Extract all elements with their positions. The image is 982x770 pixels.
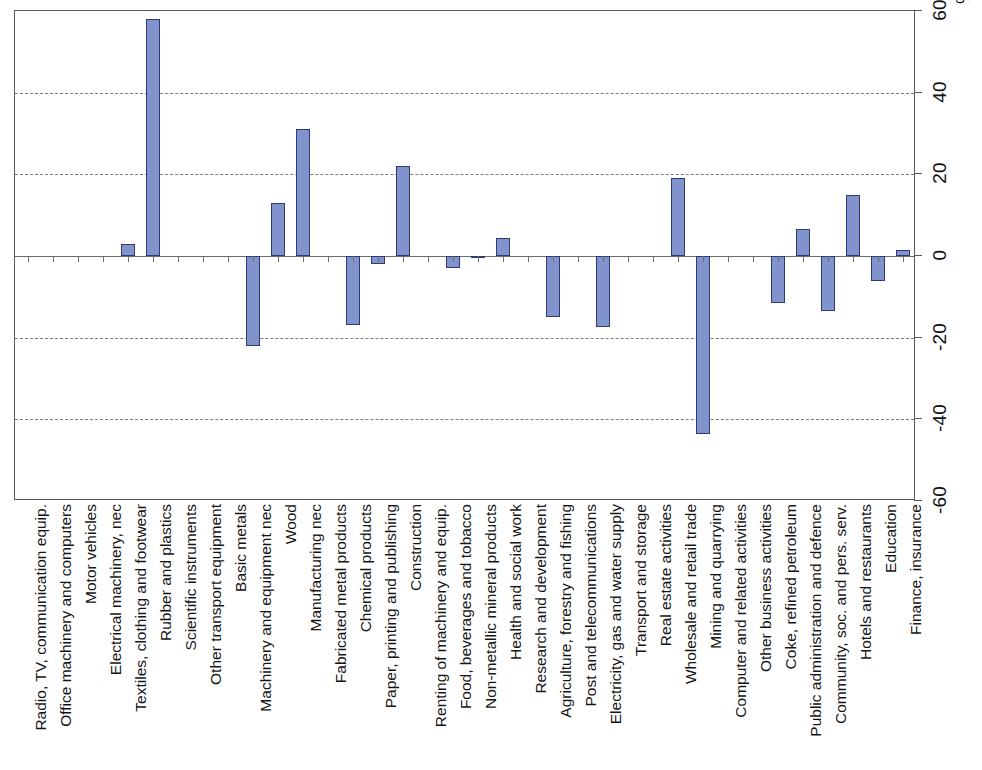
category-tick bbox=[628, 256, 629, 262]
category-tick bbox=[478, 256, 479, 262]
category-tick bbox=[503, 256, 504, 262]
category-tick bbox=[153, 256, 154, 262]
y-axis-tick-label: -20 bbox=[929, 315, 951, 359]
category-label: Non-metallic mineral products bbox=[483, 504, 499, 768]
y-axis-tick-label: -40 bbox=[929, 396, 951, 440]
y-axis-tick-label: -60 bbox=[929, 478, 951, 522]
category-tick bbox=[378, 256, 379, 262]
y-axis-tick-label: 60 bbox=[929, 0, 951, 32]
bar bbox=[846, 195, 860, 256]
category-tick bbox=[103, 256, 104, 262]
bar bbox=[496, 238, 510, 256]
category-tick bbox=[28, 256, 29, 262]
category-label: Paper, printing and publishing bbox=[383, 504, 399, 768]
y-axis-unit-label: % bbox=[952, 0, 974, 4]
category-label: Renting of machinery and equip. bbox=[433, 504, 449, 768]
bar bbox=[271, 203, 285, 256]
category-tick bbox=[603, 256, 604, 262]
category-label: Agriculture, forestry and fishing bbox=[558, 504, 574, 768]
category-tick bbox=[828, 256, 829, 262]
category-label: Fabricated metal products bbox=[333, 504, 349, 768]
category-label: Post and telecommunications bbox=[583, 504, 599, 768]
category-label: Wood bbox=[283, 504, 299, 768]
bar bbox=[696, 256, 710, 434]
bar bbox=[671, 178, 685, 256]
bar bbox=[121, 244, 135, 256]
category-tick bbox=[53, 256, 54, 262]
category-tick bbox=[528, 256, 529, 262]
bar bbox=[596, 256, 610, 327]
category-label: Computer and related activities bbox=[733, 504, 749, 768]
bar bbox=[396, 166, 410, 256]
category-tick bbox=[303, 256, 304, 262]
category-label: Basic metals bbox=[233, 504, 249, 768]
category-label: Health and social work bbox=[508, 504, 524, 768]
category-label: Public administration and defence bbox=[808, 504, 824, 768]
y-axis-labels: 6040200-20-40-60 bbox=[918, 10, 962, 500]
bar bbox=[821, 256, 835, 311]
category-tick bbox=[678, 256, 679, 262]
category-tick bbox=[778, 256, 779, 262]
category-label: Radio, TV, communication equip. bbox=[33, 504, 49, 768]
category-label: Electrical machinery, nec bbox=[108, 504, 124, 768]
category-label: Mining and quarrying bbox=[708, 504, 724, 768]
category-tick bbox=[703, 256, 704, 262]
bar bbox=[246, 256, 260, 346]
category-label: Manufacturing nec bbox=[308, 504, 324, 768]
category-tick bbox=[403, 256, 404, 262]
category-tick bbox=[278, 256, 279, 262]
category-label: Wholesale and retail trade bbox=[683, 504, 699, 768]
category-label: Finance, insurance bbox=[908, 504, 924, 768]
bar bbox=[346, 256, 360, 325]
bar bbox=[296, 129, 310, 256]
bar bbox=[546, 256, 560, 317]
category-tick bbox=[428, 256, 429, 262]
category-tick bbox=[328, 256, 329, 262]
category-label: Construction bbox=[408, 504, 424, 768]
plot-area bbox=[14, 10, 915, 500]
category-label: Motor vehicles bbox=[83, 504, 99, 768]
category-label: Office machinery and computers bbox=[58, 504, 74, 768]
category-tick bbox=[228, 256, 229, 262]
category-tick bbox=[178, 256, 179, 262]
category-label: Coke, refined petroleum bbox=[783, 504, 799, 768]
category-tick bbox=[353, 256, 354, 262]
category-label: Machinery and equipment nec bbox=[258, 504, 274, 768]
category-tick bbox=[78, 256, 79, 262]
category-label: Other transport equipment bbox=[208, 504, 224, 768]
category-labels: Radio, TV, communication equip.Office ma… bbox=[14, 504, 915, 770]
bar bbox=[146, 19, 160, 256]
category-tick bbox=[853, 256, 854, 262]
category-label: Hotels and restaurants bbox=[858, 504, 874, 768]
bar bbox=[796, 229, 810, 256]
category-tick bbox=[253, 256, 254, 262]
category-tick bbox=[878, 256, 879, 262]
bar bbox=[771, 256, 785, 303]
bars-layer bbox=[15, 11, 914, 499]
category-tick bbox=[203, 256, 204, 262]
category-label: Education bbox=[883, 504, 899, 768]
category-label: Textiles, clothing and footwear bbox=[133, 504, 149, 768]
category-tick bbox=[653, 256, 654, 262]
category-tick bbox=[453, 256, 454, 262]
category-label: Scientific instruments bbox=[183, 504, 199, 768]
category-label: Research and development bbox=[533, 504, 549, 768]
category-tick bbox=[578, 256, 579, 262]
category-tick bbox=[128, 256, 129, 262]
category-label: Rubber and plastics bbox=[158, 504, 174, 768]
category-label: Other business activities bbox=[758, 504, 774, 768]
category-tick bbox=[728, 256, 729, 262]
category-tick bbox=[903, 256, 904, 262]
category-tick bbox=[803, 256, 804, 262]
category-label: Real estate activities bbox=[658, 504, 674, 768]
chart-figure: 6040200-20-40-60 % Radio, TV, communicat… bbox=[0, 0, 982, 770]
category-label: Electricity, gas and water supply bbox=[608, 504, 624, 768]
y-axis-tick-label: 0 bbox=[929, 233, 951, 277]
y-axis-tick bbox=[914, 500, 922, 501]
category-tick bbox=[753, 256, 754, 262]
y-axis-tick-label: 20 bbox=[929, 151, 951, 195]
category-label: Chemical products bbox=[358, 504, 374, 768]
category-label: Food, beverages and tobacco bbox=[458, 504, 474, 768]
category-label: Transport and storage bbox=[633, 504, 649, 768]
y-axis-tick-label: 40 bbox=[929, 70, 951, 114]
